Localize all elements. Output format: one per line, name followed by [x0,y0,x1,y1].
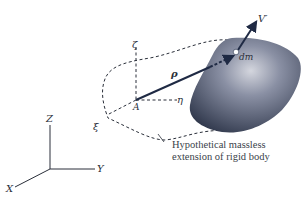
caption-pointer [158,134,164,142]
inertial-axis-x [15,169,50,187]
label-point-a: A [132,102,140,112]
label-velocity: V′ [258,13,268,24]
label-dm: dm [239,52,253,62]
mass-element-point [233,49,239,55]
label-axis-x: X [5,183,14,194]
label-zeta: ζ [132,39,138,50]
xi-axis [107,100,136,115]
label-rho: ρ [170,68,178,79]
caption-line-1: Hypothetical massless [172,139,266,150]
label-eta: η [177,94,183,105]
label-axis-y: Y [97,163,105,174]
caption-line-2: extension of rigid body [172,151,270,162]
rigid-body-diagram: V′ dm ρ ζ η ξ A Z Y X Hypothetical massl… [0,0,307,197]
label-axis-z: Z [45,113,54,124]
label-xi: ξ [93,121,99,132]
